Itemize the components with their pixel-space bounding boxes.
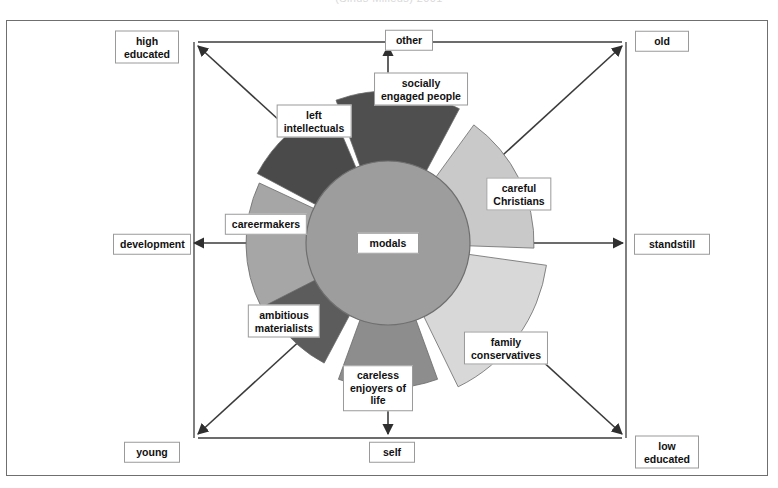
sector-label-socially-engaged-people: socially engaged people (374, 73, 468, 106)
axis-label-low-educated: low educated (635, 436, 699, 469)
axis-label-other: other (385, 30, 433, 51)
center-label: modals (357, 233, 419, 254)
axis-label-standstill: standstill (634, 234, 710, 255)
figure-caption: (Sinus Milieus) 2001 (0, 0, 778, 4)
axis-label-self: self (369, 442, 415, 463)
sector-label-ambitious-materialists: ambitious materialists (248, 305, 320, 338)
sector-label-careermakers: careermakers (225, 214, 307, 235)
axis-label-old: old (635, 31, 689, 52)
sector-label-left-intellectuals: left intellectuals (277, 105, 352, 138)
axis-label-high-educated: high educated (115, 31, 179, 64)
sector-label-careful-Christians: careful Christians (486, 178, 551, 211)
axis-label-development: development (113, 234, 191, 255)
sector-label-careless-enjoyers-of-life: careless enjoyers of life (343, 365, 413, 411)
sinus-milieu-rose-figure: (Sinus Milieus) 2001 (0, 0, 778, 488)
sector-label-family-conservatives: family conservatives (464, 332, 548, 365)
axis-label-young: young (124, 442, 180, 463)
